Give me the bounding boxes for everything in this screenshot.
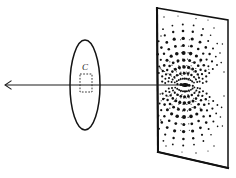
pattern-streak-dot bbox=[171, 75, 172, 76]
pattern-dot bbox=[174, 45, 177, 48]
pattern-dot bbox=[205, 81, 207, 83]
pattern-streak-dot bbox=[164, 71, 165, 72]
pattern-dot bbox=[158, 72, 160, 74]
pattern-dot bbox=[189, 108, 192, 111]
pattern-dot bbox=[176, 74, 178, 76]
pattern-dot bbox=[171, 87, 173, 89]
figure-root: C bbox=[0, 0, 236, 178]
pattern-streak-dot bbox=[186, 78, 187, 79]
pattern-dot bbox=[193, 25, 195, 27]
pattern-dot bbox=[190, 45, 193, 48]
pattern-dot bbox=[187, 66, 190, 69]
pattern-dot bbox=[174, 122, 177, 125]
pattern-streak-dot bbox=[182, 59, 183, 60]
pattern-dot bbox=[179, 73, 182, 76]
pattern-dot bbox=[166, 126, 169, 129]
pattern-streak-dot bbox=[191, 75, 192, 76]
pattern-dot bbox=[194, 87, 196, 89]
pattern-dot bbox=[174, 87, 176, 89]
pattern-dot bbox=[193, 82, 195, 84]
pattern-dot bbox=[212, 100, 214, 102]
pattern-dot bbox=[199, 69, 201, 71]
pattern-dot bbox=[172, 89, 174, 91]
pattern-dot bbox=[158, 128, 160, 130]
pattern-dot bbox=[163, 115, 165, 117]
pattern-streak-dot bbox=[178, 94, 179, 95]
pattern-dot bbox=[193, 61, 196, 64]
pattern-dot bbox=[195, 97, 198, 100]
pattern-dot bbox=[195, 18, 196, 19]
pattern-streak-dot bbox=[181, 123, 182, 124]
pattern-dot bbox=[208, 53, 210, 55]
pattern-streak-dot bbox=[188, 117, 189, 118]
pattern-dot bbox=[168, 120, 171, 123]
pattern-streak-dot bbox=[180, 97, 181, 98]
pattern-streak-dot bbox=[174, 78, 175, 79]
pattern-streak-dot bbox=[174, 91, 175, 92]
pattern-streak-dot bbox=[183, 65, 184, 66]
pattern-dot bbox=[208, 103, 210, 105]
pattern-dot bbox=[222, 43, 223, 44]
pattern-streak-dot bbox=[191, 94, 192, 95]
pattern-dot bbox=[171, 70, 174, 73]
pattern-streak-dot bbox=[169, 108, 170, 109]
pattern-streak-dot bbox=[183, 72, 184, 73]
pattern-dot bbox=[165, 145, 166, 146]
pattern-streak-dot bbox=[186, 104, 187, 105]
pattern-dot bbox=[197, 120, 200, 123]
pattern-streak-dot bbox=[164, 98, 165, 99]
pattern-dot bbox=[217, 126, 219, 128]
pattern-dot bbox=[172, 31, 174, 33]
pattern-dot bbox=[212, 68, 214, 70]
pattern-streak-dot bbox=[195, 101, 196, 102]
pattern-dot bbox=[176, 80, 178, 82]
pattern-dot bbox=[168, 91, 170, 93]
pattern-streak-dot bbox=[205, 98, 206, 99]
pattern-dot bbox=[193, 106, 196, 109]
pattern-dot bbox=[182, 37, 185, 40]
pattern-dot bbox=[205, 75, 207, 77]
pattern-streak-dot bbox=[191, 89, 192, 90]
pattern-streak-dot bbox=[191, 80, 192, 81]
pattern-dot bbox=[172, 144, 174, 146]
pattern-dot bbox=[196, 81, 198, 83]
pattern-streak-dot bbox=[167, 96, 168, 97]
pattern-streak-dot bbox=[178, 89, 179, 90]
pattern-streak-dot bbox=[174, 101, 175, 102]
pattern-dot bbox=[165, 41, 168, 44]
pattern-dot bbox=[195, 90, 197, 92]
pattern-dot bbox=[199, 59, 202, 62]
pattern-streak-dot bbox=[183, 97, 184, 98]
pattern-streak-dot bbox=[181, 117, 182, 118]
pattern-dot bbox=[223, 95, 224, 96]
pattern-streak-dot bbox=[198, 75, 199, 76]
pattern-dot bbox=[206, 59, 208, 61]
pattern-dot bbox=[164, 78, 166, 80]
pattern-streak-dot bbox=[195, 68, 196, 69]
pattern-dot bbox=[161, 81, 163, 83]
pattern-dot bbox=[209, 96, 211, 98]
pattern-dot bbox=[201, 134, 203, 136]
pattern-streak-dot bbox=[167, 73, 168, 74]
pattern-streak-dot bbox=[180, 78, 181, 79]
pattern-streak-dot bbox=[197, 104, 198, 105]
pattern-dot bbox=[183, 108, 186, 111]
pattern-streak-dot bbox=[178, 65, 179, 66]
pattern-streak-dot bbox=[179, 101, 180, 102]
pattern-streak-dot bbox=[193, 71, 194, 72]
pattern-streak-dot bbox=[171, 93, 172, 94]
pattern-dot bbox=[202, 28, 204, 30]
pattern-dot bbox=[172, 137, 174, 139]
screen-left-edge bbox=[157, 8, 158, 152]
pattern-dot bbox=[203, 140, 205, 142]
pattern-dot bbox=[199, 88, 201, 90]
pattern-dot bbox=[177, 59, 180, 62]
pattern-streak-dot bbox=[200, 61, 201, 62]
pattern-streak-dot bbox=[188, 123, 189, 124]
pattern-dot bbox=[182, 138, 185, 141]
pattern-dot bbox=[206, 109, 208, 111]
pattern-dot bbox=[172, 106, 175, 109]
pattern-dot bbox=[160, 35, 161, 36]
pattern-streak-dot bbox=[188, 52, 189, 53]
pattern-dot bbox=[172, 25, 174, 27]
